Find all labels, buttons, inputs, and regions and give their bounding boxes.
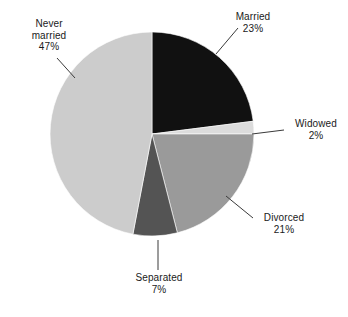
pie-chart: Never married 47% Married 23% Widowed 2%… (0, 0, 348, 317)
slice-label-separated-text: Separated (124, 272, 194, 284)
slice-label-married-value: 23% (222, 23, 284, 35)
slice-label-never-married-line1: Never (12, 18, 86, 30)
slice-label-never-married: Never married 47% (12, 18, 86, 53)
slice-label-never-married-value: 47% (12, 41, 86, 53)
leader-line-never-married (57, 58, 75, 78)
slice-label-widowed-text: Widowed (287, 118, 345, 130)
slice-label-married-text: Married (222, 11, 284, 23)
slice-label-married: Married 23% (222, 11, 284, 34)
slice-label-divorced-value: 21% (255, 224, 313, 236)
slice-label-divorced-text: Divorced (255, 212, 313, 224)
pie-slice-married (152, 32, 253, 134)
slice-label-widowed-value: 2% (287, 130, 345, 142)
slice-label-divorced: Divorced 21% (255, 212, 313, 235)
pie-slice-never-married (50, 32, 152, 234)
leader-line-widowed (252, 130, 284, 134)
slice-label-widowed: Widowed 2% (287, 118, 345, 141)
leader-line-divorced (226, 196, 253, 218)
pie-slices-group (50, 32, 254, 236)
slice-label-never-married-line2: married (12, 30, 86, 42)
slice-label-separated: Separated 7% (124, 272, 194, 295)
slice-label-separated-value: 7% (124, 284, 194, 296)
